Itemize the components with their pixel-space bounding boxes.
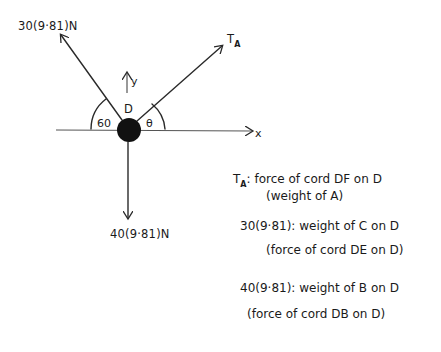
svg-text:TA: force of cord DF on D: TA: force of cord DF on D — [232, 172, 382, 189]
y-axis: y — [127, 73, 138, 93]
note-40-line2: (force of cord DB on D) — [247, 307, 385, 321]
force-notes: TA: force of cord DF on D (weight of A) … — [232, 172, 404, 321]
node-d: D — [117, 102, 141, 142]
force-30-arrow: 30(9·81)N — [18, 19, 122, 120]
angle-60-label: 60 — [97, 117, 111, 130]
free-body-diagram: x y 30(9·81)N TA 40(9·81)N 60 θ D TA: fo… — [0, 0, 441, 352]
angle-theta-arc: θ — [146, 104, 165, 130]
force-40-arrow: 40(9·81)N — [110, 142, 170, 241]
note-30: 30(9·81): weight of C on D (force of cor… — [240, 219, 404, 257]
note-40-line1: 40(9·81): weight of B on D — [240, 281, 399, 295]
angle-60-arc: 60 — [91, 99, 111, 130]
angle-theta-label: θ — [146, 117, 153, 130]
y-axis-label: y — [131, 75, 138, 88]
node-d-label: D — [124, 102, 133, 116]
note-ta-line1: : force of cord DF on D — [247, 172, 382, 186]
note-ta-line2: (weight of A) — [266, 189, 343, 203]
note-30-line2: (force of cord DE on D) — [266, 243, 404, 257]
force-40-label: 40(9·81)N — [110, 227, 170, 241]
note-ta: TA: force of cord DF on D (weight of A) — [232, 172, 382, 203]
tension-ta-arrow: TA — [137, 32, 241, 121]
x-axis: x — [56, 127, 262, 140]
tension-ta-label: TA — [226, 32, 241, 49]
note-40: 40(9·81): weight of B on D (force of cor… — [240, 281, 399, 321]
note-30-line1: 30(9·81): weight of C on D — [240, 219, 399, 233]
force-30-label: 30(9·81)N — [18, 19, 78, 33]
x-axis-label: x — [255, 127, 262, 140]
